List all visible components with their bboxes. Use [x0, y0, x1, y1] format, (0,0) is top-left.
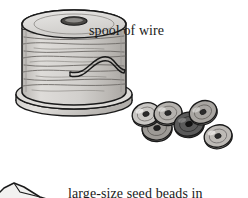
spool-center-slot — [61, 17, 87, 25]
caption-spool-of-wire: spool of wire — [89, 23, 164, 39]
seed-beads-group — [130, 97, 235, 152]
illustration-scene: spool of wire large-size seed beads in y… — [0, 0, 248, 198]
partial-corner-object — [0, 183, 50, 198]
seed-bead — [202, 122, 235, 152]
caption-seed-beads-line-1: large-size seed beads in — [68, 186, 203, 198]
caption-seed-beads: large-size seed beads in your choice of … — [68, 154, 203, 198]
spool-body — [22, 29, 126, 105]
